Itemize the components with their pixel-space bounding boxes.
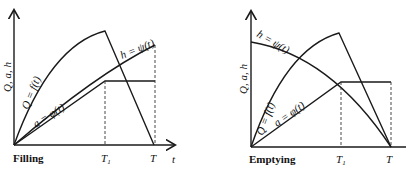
y-axis-label: Q, a, h — [237, 64, 249, 94]
h-curve-label: h = ψ(t) — [118, 36, 156, 62]
a-curve-label: a = φ(t) — [31, 100, 68, 130]
y-axis-label: Q, a, h — [1, 62, 13, 92]
filling-caption: Filling — [13, 152, 44, 164]
x-axis-label: t — [172, 153, 176, 165]
diagram-canvas: Q, a, h Q = f(t) a = φ(t) h = ψ(t) Filli… — [0, 0, 407, 174]
a-curve-label: a = φ(t) — [271, 99, 307, 130]
q-curve-label: Q = f(t) — [19, 74, 44, 111]
q-curve — [251, 33, 391, 147]
h-curve-label: h = ψ(t) — [255, 27, 293, 56]
t1-label: T1 — [336, 153, 346, 167]
filling-panel: Q, a, h Q = f(t) a = φ(t) h = ψ(t) Filli… — [1, 11, 176, 166]
emptying-panel: Q, a, h h = ψ(t) Q = f(t) a = φ(t) Empty… — [237, 12, 406, 167]
t-label: T — [386, 153, 393, 165]
t-label: T — [150, 152, 157, 164]
emptying-caption: Emptying — [249, 153, 296, 165]
t1-label: T1 — [101, 152, 111, 166]
